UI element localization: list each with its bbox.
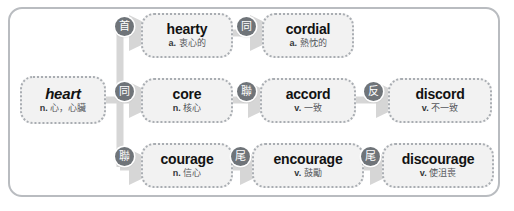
word-gloss: a. 衷心的 — [168, 39, 205, 48]
word-gloss: n. 核心 — [173, 104, 202, 113]
word-term: heart — [45, 86, 81, 102]
word-gloss: v. 一致 — [294, 104, 321, 113]
word-meaning: 核心 — [183, 103, 201, 113]
word-gloss: v. 不一致 — [422, 104, 458, 113]
word-pos: v. — [294, 103, 301, 113]
word-pos: n. — [173, 103, 181, 113]
prefix-badge-icon[interactable]: 首 — [115, 17, 134, 36]
word-term: hearty — [167, 22, 208, 37]
word-gloss: n. 信心 — [173, 169, 202, 178]
synonym-badge-icon[interactable]: 同 — [237, 17, 256, 36]
antonym-badge-icon[interactable]: 反 — [364, 82, 383, 101]
word-meaning: 衷心的 — [179, 38, 206, 48]
word-meaning: 熱忱的 — [300, 38, 327, 48]
word-gloss: a. 熱忱的 — [289, 39, 326, 48]
related-badge-icon[interactable]: 聯 — [115, 147, 134, 166]
word-term: cordial — [286, 22, 331, 37]
word-meaning: 一致 — [304, 103, 322, 113]
word-term: discord — [415, 87, 464, 102]
word-pos: a. — [168, 38, 176, 48]
word-meaning: 不一致 — [431, 103, 458, 113]
word-node-cordial[interactable]: cordial a. 熱忱的 — [262, 13, 354, 58]
word-pos: n. — [173, 168, 181, 178]
word-node-courage[interactable]: courage n. 信心 — [141, 143, 233, 188]
word-meaning: 心，心臟 — [50, 103, 86, 113]
word-family-diagram: heart n. 心，心臟 hearty a. 衷心的 cordial a. 熱… — [0, 0, 514, 211]
word-meaning: 使沮喪 — [429, 168, 456, 178]
word-pos: v. — [294, 168, 301, 178]
word-node-encourage[interactable]: encourage v. 鼓勵 — [252, 143, 364, 188]
word-node-accord[interactable]: accord v. 一致 — [260, 78, 356, 123]
word-node-discord[interactable]: discord v. 不一致 — [388, 78, 492, 123]
suffix-badge-icon[interactable]: 尾 — [231, 147, 250, 166]
word-pos: v. — [420, 168, 427, 178]
word-node-discourage[interactable]: discourage v. 使沮喪 — [382, 143, 494, 188]
word-gloss: n. 心，心臟 — [40, 104, 87, 113]
word-pos: v. — [422, 103, 429, 113]
word-pos: a. — [289, 38, 297, 48]
word-term: encourage — [274, 152, 343, 167]
word-meaning: 信心 — [183, 168, 201, 178]
word-pos: n. — [40, 103, 48, 113]
word-term: accord — [286, 87, 331, 102]
word-gloss: v. 使沮喪 — [420, 169, 456, 178]
word-gloss: v. 鼓勵 — [294, 169, 321, 178]
word-meaning: 鼓勵 — [304, 168, 322, 178]
word-term: discourage — [402, 152, 475, 167]
word-node-heart[interactable]: heart n. 心，心臟 — [20, 76, 106, 124]
word-term: courage — [160, 152, 213, 167]
related-badge-icon[interactable]: 聯 — [237, 82, 256, 101]
suffix-badge-icon[interactable]: 尾 — [361, 147, 380, 166]
word-node-core[interactable]: core n. 核心 — [141, 78, 233, 123]
word-node-hearty[interactable]: hearty a. 衷心的 — [141, 13, 233, 58]
word-term: core — [173, 87, 202, 102]
synonym-badge-icon[interactable]: 同 — [115, 82, 134, 101]
